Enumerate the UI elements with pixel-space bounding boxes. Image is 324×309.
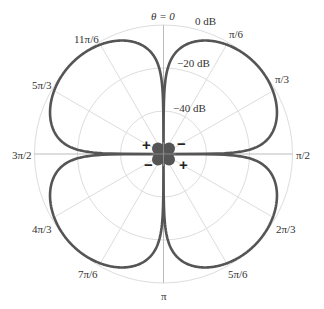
minus-sign-upper-right: − — [177, 136, 186, 151]
angle-label-4pi-3: 4π/3 — [32, 224, 52, 235]
angle-label-5pi-3: 5π/3 — [32, 80, 52, 91]
db-0-label: 0 dB — [195, 16, 216, 27]
center-small-lobes — [152, 142, 176, 166]
angle-label-2pi-3: 2π/3 — [276, 224, 296, 235]
theta-zero-label: θ = 0 — [151, 11, 175, 22]
db-minus40-label: −40 dB — [173, 103, 206, 114]
angle-label-3pi-2: 3π/2 — [12, 150, 32, 161]
db-minus20-label: −20 dB — [177, 58, 210, 69]
minus-sign-lower-left: − — [144, 157, 153, 172]
angle-label-pi-3: π/3 — [275, 74, 289, 85]
angle-label-11pi-6: 11π/6 — [74, 34, 99, 45]
angle-label-pi: π — [161, 291, 167, 302]
angle-label-pi-2: π/2 — [296, 150, 310, 161]
plus-sign-upper-left: + — [142, 137, 151, 152]
angle-label-pi-6: π/6 — [229, 29, 243, 40]
angle-label-7pi-6: 7π/6 — [78, 269, 98, 280]
angle-label-5pi-6: 5π/6 — [228, 269, 248, 280]
polar-chart — [0, 0, 324, 309]
plus-sign-lower-right: + — [179, 157, 188, 172]
